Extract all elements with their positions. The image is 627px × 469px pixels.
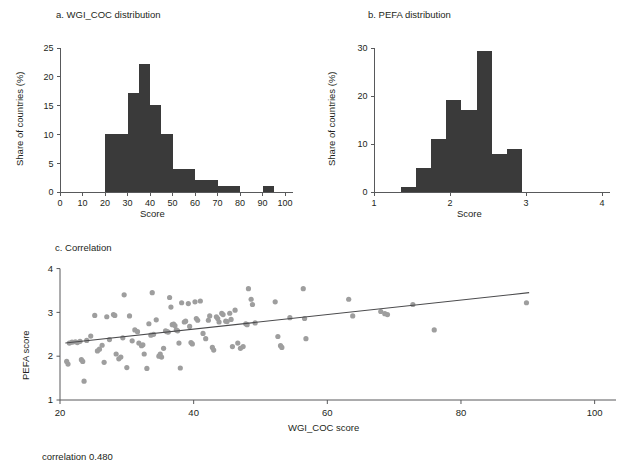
scatter-point — [114, 351, 119, 356]
scatter-point — [178, 365, 183, 370]
x-tick-label: 2 — [447, 198, 452, 208]
scatter-point — [241, 344, 246, 349]
histogram-bar — [416, 168, 431, 192]
y-tick-label: 25 — [43, 43, 53, 53]
scatter-point — [228, 317, 233, 322]
regression-line — [65, 293, 529, 343]
histogram-bar — [431, 139, 446, 192]
histogram-bar — [105, 134, 116, 192]
scatter-point — [124, 365, 129, 370]
scatter-point — [120, 335, 125, 340]
scatter-point — [287, 315, 292, 320]
scatter-point — [104, 314, 109, 319]
histogram-bar — [161, 134, 172, 192]
histogram-bar — [229, 186, 240, 192]
panel-b-pefa-distribution: b. PEFA distribution Share of countries … — [312, 0, 627, 230]
scatter-point — [279, 345, 284, 350]
histogram-bar — [173, 169, 184, 192]
x-tick-label: 100 — [277, 198, 292, 208]
scatter-point — [140, 342, 145, 347]
y-tick-label: 20 — [357, 91, 367, 101]
x-tick-label: 10 — [77, 198, 87, 208]
histogram-bar — [446, 100, 461, 192]
scatter-point — [186, 301, 191, 306]
scatter-point — [192, 299, 197, 304]
scatter-point — [81, 379, 86, 384]
scatter-point — [207, 313, 212, 318]
x-tick-label: 20 — [55, 407, 66, 418]
y-tick-label: 4 — [48, 263, 53, 274]
scatter-point — [151, 332, 156, 337]
scatter-point — [130, 338, 135, 343]
scatter-point — [183, 319, 188, 324]
scatter-point — [118, 354, 123, 359]
scatter-point — [250, 302, 255, 307]
scatter-point — [154, 317, 159, 322]
x-tick-label: 100 — [587, 407, 603, 418]
scatter-point — [135, 329, 140, 334]
y-tick-label: 0 — [362, 187, 367, 197]
x-tick-label: 40 — [188, 407, 199, 418]
scatter-point — [385, 312, 390, 317]
y-tick-label: 20 — [43, 72, 53, 82]
x-tick-label: 70 — [212, 198, 222, 208]
scatter-point — [102, 360, 107, 365]
scatter-point — [179, 300, 184, 305]
y-tick-label: 1 — [48, 394, 53, 405]
scatter-point — [88, 333, 93, 338]
y-tick-label: 2 — [48, 350, 53, 361]
panel-c-plot: 123420406080100 — [0, 230, 627, 469]
scatter-point — [187, 324, 192, 329]
scatter-point — [168, 305, 173, 310]
y-tick-label: 3 — [48, 307, 53, 318]
x-tick-label: 4 — [599, 198, 604, 208]
scatter-point — [190, 341, 195, 346]
scatter-point — [246, 286, 251, 291]
scatter-point — [176, 340, 181, 345]
scatter-point — [206, 318, 211, 323]
scatter-point — [65, 361, 70, 366]
scatter-point — [172, 323, 177, 328]
scatter-point — [144, 366, 149, 371]
histogram-bar — [263, 186, 274, 192]
scatter-point — [303, 336, 308, 341]
x-tick-label: 80 — [456, 407, 467, 418]
scatter-point — [301, 286, 306, 291]
scatter-point — [230, 344, 235, 349]
scatter-point — [167, 295, 172, 300]
y-tick-label: 30 — [357, 43, 367, 53]
histogram-bar — [206, 180, 217, 192]
x-tick-label: 40 — [145, 198, 155, 208]
panel-a-plot: 05101520250102030405060708090100 — [0, 0, 315, 230]
histogram-bar — [139, 64, 150, 192]
panel-b-plot: 01020301234 — [312, 0, 627, 230]
y-tick-label: 10 — [43, 130, 53, 140]
scatter-point — [432, 327, 437, 332]
histogram-bar — [184, 169, 195, 192]
scatter-point — [211, 347, 216, 352]
scatter-point — [524, 300, 529, 305]
x-tick-label: 3 — [523, 198, 528, 208]
histogram-bar — [492, 154, 507, 192]
histogram-bars — [401, 51, 523, 192]
x-tick-label: 0 — [57, 198, 62, 208]
x-tick-label: 1 — [371, 198, 376, 208]
scatter-point — [142, 351, 147, 356]
scatter-point — [92, 313, 97, 318]
x-tick-label: 90 — [257, 198, 267, 208]
scatter-point — [127, 313, 132, 318]
panel-a-wgi-coc-distribution: a. WGI_COC distribution Share of countri… — [0, 0, 315, 230]
scatter-point — [203, 336, 208, 341]
y-tick-label: 10 — [357, 139, 367, 149]
scatter-point — [410, 302, 415, 307]
histogram-bar — [150, 105, 161, 192]
scatter-point — [159, 354, 164, 359]
scatter-point — [122, 292, 127, 297]
scatter-point — [198, 298, 203, 303]
histogram-bar — [507, 149, 522, 192]
histogram-bar — [195, 180, 206, 192]
scatter-point — [100, 343, 105, 348]
x-tick-label: 50 — [167, 198, 177, 208]
histogram-bar — [461, 110, 476, 192]
histogram-bars — [105, 64, 274, 192]
